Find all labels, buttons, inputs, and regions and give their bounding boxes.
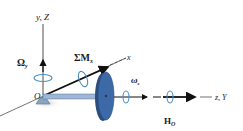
shaft: [43, 94, 101, 99]
z-axis-label: z, Y: [214, 93, 228, 102]
spin-label: ωs: [131, 75, 140, 86]
vertical-axis-label: y, Z: [35, 12, 50, 22]
angular-momentum-label: HO: [164, 116, 176, 127]
gyroscope-diagram: y, Z Ωy x ΣMx O ωs HO z, Y: [0, 0, 243, 131]
origin-label: O: [34, 91, 41, 101]
moment-label: ΣMx: [74, 52, 93, 64]
precession-label: Ωy: [17, 57, 28, 69]
disk-hub: [105, 95, 107, 97]
x-axis-label: x: [126, 53, 131, 62]
